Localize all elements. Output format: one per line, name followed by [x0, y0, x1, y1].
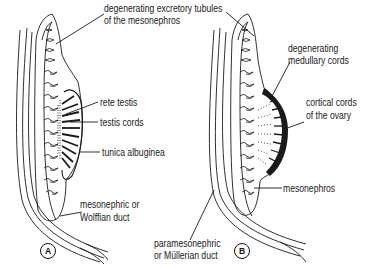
label-tunica-albuginea: tunica albuginea — [102, 146, 165, 158]
label-testis-cords: testis cords — [100, 116, 144, 128]
panel-a-badge: A — [40, 243, 56, 259]
label-degenerating-tubules-2: of the mesonephros — [104, 14, 180, 26]
label-degenerating-tubules-1: degenerating excretory tubules — [104, 2, 222, 14]
label-rete-testis: rete testis — [100, 96, 137, 108]
label-wolffian-1: mesonephric or — [80, 198, 139, 210]
label-cortical-1: cortical cords — [306, 96, 357, 108]
label-cortical-2: of the ovary — [306, 109, 351, 121]
embryology-diagram — [0, 0, 366, 268]
label-mullerian-2: or Müllerian duct — [154, 249, 218, 261]
label-wolffian-2: Wolffian duct — [80, 211, 129, 223]
panel-a-drawing — [17, 14, 109, 264]
label-mullerian-1: paramesonephric — [154, 237, 221, 249]
panel-b-badge: B — [234, 243, 250, 259]
label-mesonephros: mesonephros — [283, 182, 335, 194]
label-medullary-2: medullary cords — [288, 54, 349, 66]
label-medullary-1: degenerating — [288, 42, 338, 54]
